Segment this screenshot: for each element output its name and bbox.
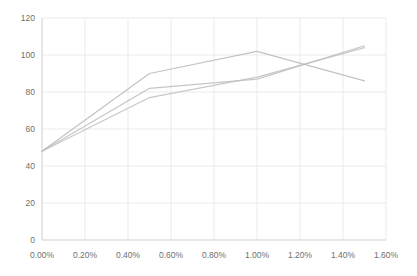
y-axis-tick-label: 20 [26,198,36,208]
x-axis-tick-label: 1.40% [331,250,356,260]
x-axis-tick-label: 0.40% [116,250,141,260]
x-axis-tick-label: 1.20% [288,250,313,260]
gridlines [42,18,386,240]
x-axis-tick-label: 1.00% [245,250,270,260]
x-axis-tick-label: 1.60% [374,250,399,260]
chart-canvas: 020406080100120 0.00%0.20%0.40%0.60%0.80… [0,0,417,276]
y-axis-tick-label: 100 [21,50,35,60]
y-axis-tick-label: 120 [21,13,35,23]
line-chart: 020406080100120 0.00%0.20%0.40%0.60%0.80… [0,0,417,276]
x-axis-tick-label: 0.00% [30,250,55,260]
y-axis-tick-labels: 020406080100120 [21,13,35,245]
y-axis-tick-label: 60 [26,124,36,134]
y-axis-tick-label: 0 [30,235,35,245]
y-axis-tick-label: 80 [26,87,36,97]
x-axis-tick-labels: 0.00%0.20%0.40%0.60%0.80%1.00%1.20%1.40%… [30,250,399,260]
data-series-line [42,48,365,152]
x-axis-tick-label: 0.80% [202,250,227,260]
y-axis-tick-label: 40 [26,161,36,171]
data-series-line [42,51,365,151]
series-lines [42,46,365,151]
x-axis-tick-label: 0.60% [159,250,184,260]
x-axis-tick-label: 0.20% [73,250,98,260]
